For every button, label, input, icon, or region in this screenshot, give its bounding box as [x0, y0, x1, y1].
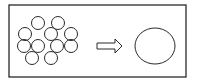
small-droplet-circle	[18, 40, 31, 53]
small-droplet-circle	[19, 28, 32, 41]
small-droplet-circle	[32, 17, 45, 30]
hollow-right-arrow-icon	[97, 39, 122, 53]
small-droplet-circle	[32, 40, 45, 53]
small-droplet-circle	[65, 28, 78, 41]
small-droplet-circle	[65, 40, 78, 53]
diagram-frame	[9, 5, 186, 77]
small-droplet-circle	[45, 28, 58, 41]
coalescence-diagram	[0, 0, 197, 83]
small-droplet-circle	[45, 52, 58, 65]
large-droplet-circle	[135, 28, 175, 64]
small-droplet-circle	[26, 52, 39, 65]
small-droplets-cluster	[18, 17, 78, 65]
small-droplet-circle	[51, 40, 64, 53]
